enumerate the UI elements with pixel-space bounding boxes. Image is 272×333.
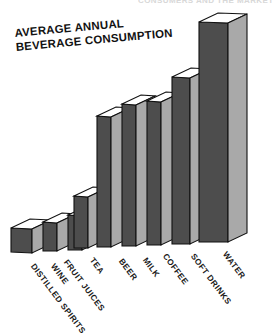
category-label-tea: TEA: [88, 256, 106, 276]
category-labels-layer: DISTILLED SPIRITS WINE FRUIT JUICES TEA …: [0, 0, 272, 333]
category-label-milk: MILK: [141, 256, 161, 279]
beverage-consumption-chart-figure: CONSUMERS AND THE MARKET AVERAGE ANNUAL …: [0, 0, 272, 333]
category-label-coffee: COFFEE: [161, 252, 190, 286]
category-label-beer: BEER: [117, 257, 139, 282]
category-label-water: WATER: [221, 250, 247, 281]
